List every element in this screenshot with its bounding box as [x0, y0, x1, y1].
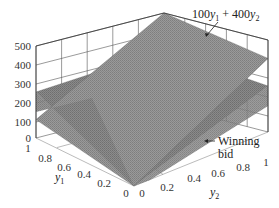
z-tick-300: 300 [15, 78, 32, 90]
y1-tick-1: 1 [25, 142, 31, 154]
z-axis-ticks: 500 400 300 200 100 0 [15, 40, 32, 144]
y1-tick-0: 0 [123, 187, 129, 199]
y2-tick-1: 1 [263, 156, 269, 168]
annotation-bid: bid [218, 147, 233, 161]
y2-tick-0: 0 [139, 187, 145, 199]
y1-tick-0.8: 0.8 [38, 152, 52, 164]
y2-axis-label: y2 [209, 185, 219, 201]
y2-tick-0.2: 0.2 [160, 181, 174, 193]
z-tick-400: 400 [15, 59, 32, 71]
annotation-winning: Winning [218, 134, 260, 148]
surface-chart: 500 400 300 200 100 0 1 0.8 0.6 0.4 0.2 … [0, 0, 279, 208]
y2-tick-0.6: 0.6 [211, 167, 225, 179]
y1-tick-0.4: 0.4 [77, 168, 91, 180]
annotation-formula: 100y1 + 400y2 [192, 7, 259, 23]
z-tick-500: 500 [15, 40, 32, 52]
y1-tick-0.2: 0.2 [97, 177, 111, 189]
y2-tick-0.4: 0.4 [187, 172, 201, 184]
z-tick-200: 200 [15, 97, 32, 109]
y2-tick-0.8: 0.8 [236, 161, 250, 173]
z-tick-100: 100 [15, 116, 32, 128]
